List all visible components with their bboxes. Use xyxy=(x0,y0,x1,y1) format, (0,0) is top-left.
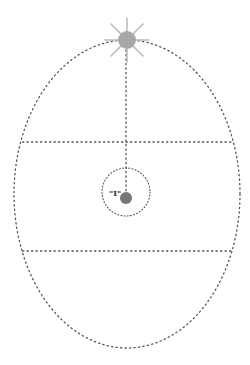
planet-dot xyxy=(120,192,132,204)
diagram-canvas xyxy=(0,0,250,365)
inner-label: "I" xyxy=(109,188,121,198)
star-body xyxy=(118,31,136,49)
